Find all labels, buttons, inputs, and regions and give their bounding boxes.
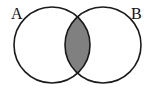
- venn-diagram: A B: [0, 0, 148, 89]
- set-a-label: A: [11, 5, 23, 22]
- set-b-label: B: [131, 5, 142, 22]
